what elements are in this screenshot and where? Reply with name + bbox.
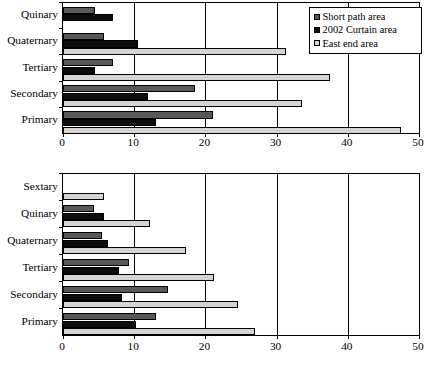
bar-secondary-east-end-area bbox=[63, 100, 302, 107]
top-chart-x-axis-labels: 01020304050 bbox=[0, 137, 431, 155]
x-axis-label-10: 10 bbox=[113, 341, 153, 352]
bar-quaternary-short-path-area bbox=[63, 33, 104, 40]
gridline-20 bbox=[205, 173, 206, 335]
category-label-secondary: Secondary bbox=[10, 88, 58, 99]
category-label-quaternary: Quaternary bbox=[7, 235, 58, 246]
x-tickmark-10 bbox=[134, 335, 135, 339]
bar-quaternary-2002-curtain-area bbox=[63, 40, 138, 47]
bottom-chart-x-axis-labels: 01020304050 bbox=[0, 341, 431, 359]
bar-quaternary-east-end-area bbox=[63, 247, 186, 254]
y-tickmark-sextary bbox=[59, 173, 63, 174]
x-axis-label-50: 50 bbox=[398, 341, 431, 352]
x-tickmark-50 bbox=[419, 335, 420, 339]
category-label-tertiary: Tertiary bbox=[22, 262, 58, 273]
bar-tertiary-2002-curtain-area bbox=[63, 267, 119, 274]
x-axis-label-0: 0 bbox=[42, 341, 82, 352]
bar-quaternary-east-end-area bbox=[63, 48, 286, 55]
gridline-40 bbox=[348, 173, 349, 335]
x-axis-label-30: 30 bbox=[256, 137, 296, 148]
bottom-chart-frame-top bbox=[63, 173, 420, 174]
legend-label-short-path-area: Short path area bbox=[323, 10, 386, 23]
x-axis-label-10: 10 bbox=[113, 137, 153, 148]
bar-primary-east-end-area bbox=[63, 328, 255, 335]
bar-quinary-short-path-area bbox=[63, 205, 94, 212]
legend-swatch-2002-curtain-area bbox=[314, 27, 320, 33]
category-label-secondary: Secondary bbox=[10, 289, 58, 300]
x-tickmark-40 bbox=[348, 335, 349, 339]
y-tickmark-quaternary bbox=[59, 28, 63, 29]
x-axis-label-0: 0 bbox=[42, 137, 82, 148]
bar-tertiary-short-path-area bbox=[63, 259, 129, 266]
bottom-chart-frame-right bbox=[419, 173, 420, 335]
x-axis-label-20: 20 bbox=[184, 341, 224, 352]
legend-item-short-path-area: Short path area bbox=[314, 10, 418, 23]
category-label-quinary: Quinary bbox=[21, 208, 58, 219]
legend-item-east-end-area: East end area bbox=[314, 37, 418, 50]
x-tickmark-20 bbox=[205, 335, 206, 339]
bar-sextary-east-end-area bbox=[63, 193, 104, 200]
bar-quaternary-short-path-area bbox=[63, 232, 102, 239]
bar-tertiary-2002-curtain-area bbox=[63, 67, 95, 74]
bar-quinary-2002-curtain-area bbox=[63, 14, 113, 21]
bar-tertiary-east-end-area bbox=[63, 74, 330, 81]
bottom-chart: PrimarySecondaryTertiaryQuaternaryQuinar… bbox=[0, 165, 431, 382]
bar-quaternary-2002-curtain-area bbox=[63, 240, 108, 247]
bar-tertiary-east-end-area bbox=[63, 274, 214, 281]
category-label-sextary: Sextary bbox=[23, 181, 58, 192]
x-tickmark-30 bbox=[277, 335, 278, 339]
gridline-30 bbox=[277, 2, 278, 133]
x-axis-label-40: 40 bbox=[327, 341, 367, 352]
y-tickmark-quinary bbox=[59, 2, 63, 3]
gridline-30 bbox=[277, 173, 278, 335]
legend-item-2002-curtain-area: 2002 Curtain area bbox=[314, 23, 418, 36]
x-tickmark-0 bbox=[63, 335, 64, 339]
x-axis-label-20: 20 bbox=[184, 137, 224, 148]
category-label-primary: Primary bbox=[22, 114, 58, 125]
legend-swatch-short-path-area bbox=[314, 14, 320, 20]
bar-quinary-east-end-area bbox=[63, 220, 150, 227]
x-axis-label-40: 40 bbox=[327, 137, 367, 148]
bar-secondary-short-path-area bbox=[63, 286, 168, 293]
legend-label-2002-curtain-area: 2002 Curtain area bbox=[323, 23, 397, 36]
bar-tertiary-short-path-area bbox=[63, 59, 113, 66]
top-chart-frame-top bbox=[63, 2, 420, 3]
legend-label-east-end-area: East end area bbox=[323, 37, 378, 50]
bar-primary-short-path-area bbox=[63, 313, 156, 320]
bar-secondary-2002-curtain-area bbox=[63, 93, 148, 100]
bar-quinary-short-path-area bbox=[63, 7, 95, 14]
bar-primary-east-end-area bbox=[63, 127, 401, 134]
chart-legend: Short path area 2002 Curtain area East e… bbox=[309, 7, 422, 54]
x-axis-label-50: 50 bbox=[398, 137, 431, 148]
bar-secondary-short-path-area bbox=[63, 85, 195, 92]
bar-secondary-east-end-area bbox=[63, 301, 238, 308]
bar-quinary-2002-curtain-area bbox=[63, 213, 104, 220]
category-label-quinary: Quinary bbox=[21, 9, 58, 20]
bottom-chart-plot-area bbox=[62, 173, 419, 336]
category-label-primary: Primary bbox=[22, 316, 58, 327]
bar-primary-2002-curtain-area bbox=[63, 321, 136, 328]
bar-primary-short-path-area bbox=[63, 111, 213, 118]
category-label-tertiary: Tertiary bbox=[22, 62, 58, 73]
x-axis-label-30: 30 bbox=[256, 341, 296, 352]
top-chart: PrimarySecondaryTertiaryQuaternaryQuinar… bbox=[0, 0, 431, 165]
bar-secondary-2002-curtain-area bbox=[63, 294, 122, 301]
bar-primary-2002-curtain-area bbox=[63, 119, 156, 126]
category-label-quaternary: Quaternary bbox=[7, 35, 58, 46]
legend-swatch-east-end-area bbox=[314, 40, 320, 46]
